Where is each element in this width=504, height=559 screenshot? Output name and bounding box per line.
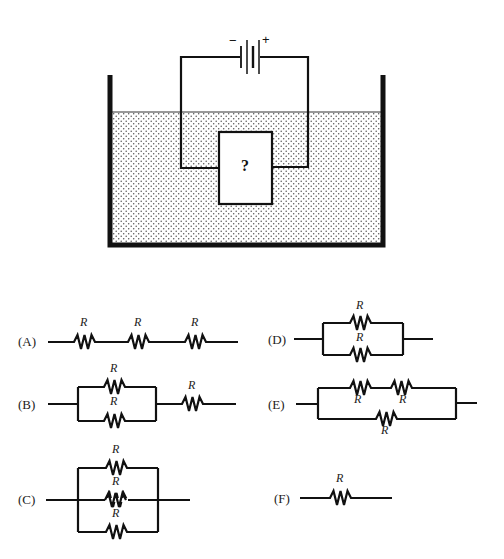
resistor-label: R	[190, 315, 199, 329]
battery-negative-label: −	[229, 33, 237, 48]
option-e-circuit	[296, 381, 477, 426]
resistor-label: R	[133, 315, 142, 329]
resistor-label: R	[380, 423, 389, 437]
option-f-label: (F)	[274, 491, 290, 506]
circuit-diagram: − + ? (A) R R R (B) R R R (C) R R R (D) …	[0, 0, 504, 559]
resistor-label: R	[398, 392, 407, 406]
option-a-label: (A)	[18, 334, 36, 349]
battery-positive-label: +	[262, 32, 270, 47]
option-a[interactable]: (A) R R R	[18, 315, 238, 349]
resistor-label: R	[355, 298, 364, 312]
resistor-label: R	[355, 330, 364, 344]
resistor-label: R	[335, 471, 344, 485]
option-e[interactable]: (E) R R R	[268, 381, 477, 437]
resistor-label: R	[109, 394, 118, 408]
resistor-label: R	[353, 392, 362, 406]
option-c-label: (C)	[18, 492, 35, 507]
resistor-label: R	[187, 378, 196, 392]
battery-icon	[241, 40, 259, 74]
resistor-label: R	[111, 442, 120, 456]
option-e-label: (E)	[268, 397, 285, 412]
option-f-circuit	[300, 491, 392, 505]
option-b-label: (B)	[18, 397, 35, 412]
resistor-label: R	[109, 361, 118, 375]
option-a-circuit	[48, 335, 238, 349]
resistor-label: R	[111, 474, 120, 488]
option-f[interactable]: (F) R	[274, 471, 392, 506]
option-c[interactable]: (C) R R R	[18, 442, 190, 539]
unknown-box-label: ?	[241, 157, 249, 174]
resistor-label: R	[79, 315, 88, 329]
option-d[interactable]: (D) R R	[268, 298, 433, 362]
option-b[interactable]: (B) R R R	[18, 361, 236, 428]
resistor-label: R	[111, 506, 120, 520]
option-d-label: (D)	[268, 332, 286, 347]
tank-figure: − + ?	[110, 32, 383, 245]
option-d-circuit	[294, 316, 433, 362]
option-b-circuit	[48, 380, 236, 428]
